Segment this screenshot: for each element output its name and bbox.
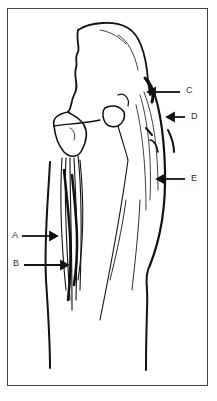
arrow-C [148, 88, 180, 96]
arrow-A [22, 232, 57, 240]
label-a: A [12, 231, 18, 240]
ischium-outline [54, 112, 87, 156]
label-c: C [186, 86, 193, 95]
label-e: E [191, 174, 197, 183]
label-d: D [191, 112, 198, 121]
anatomy-drawing [0, 0, 217, 401]
femur-head [103, 106, 125, 127]
femur-shaft [100, 126, 128, 320]
hamstring-bundle [61, 156, 83, 310]
arrow-E [157, 175, 185, 183]
label-b: B [13, 259, 19, 268]
arrow-D [167, 113, 185, 121]
